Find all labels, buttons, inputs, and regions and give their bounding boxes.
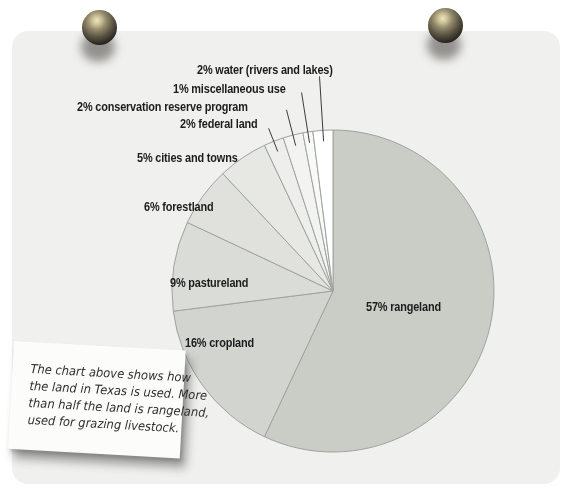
slice-label-cities: 5% cities and towns [137,150,238,165]
scanned-chart-page: 2% water (rivers and lakes) 1% miscellan… [0,0,570,496]
slice-label-federal-land: 2% federal land [180,116,258,131]
slice-label-rangeland: 57% rangeland [366,299,441,314]
slice-label-pastureland: 9% pastureland [170,275,248,290]
slice-label-cropland: 16% cropland [185,335,254,350]
slice-label-water: 2% water (rivers and lakes) [197,62,333,77]
caption-note-card: The chart above shows how the land in Te… [8,341,186,458]
slice-label-conservation: 2% conservation reserve program [77,99,248,114]
slice-label-forestland: 6% forestland [144,199,213,214]
slice-label-miscellaneous: 1% miscellaneous use [173,81,286,96]
